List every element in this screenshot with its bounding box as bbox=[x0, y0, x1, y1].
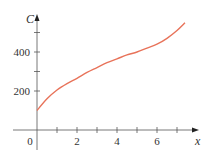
ticks bbox=[34, 33, 177, 134]
y-tick-label: 400 bbox=[14, 46, 31, 58]
x-axis-label: x bbox=[194, 134, 201, 148]
x-axis-arrow-icon bbox=[192, 128, 199, 133]
line-chart: 0246200400 C x bbox=[0, 0, 211, 160]
y-axis-arrow-icon bbox=[35, 14, 40, 21]
x-tick-label: 4 bbox=[114, 135, 120, 147]
tick-labels: 0246200400 bbox=[14, 46, 161, 147]
y-axis-label: C bbox=[26, 12, 35, 26]
cost-curve bbox=[37, 23, 185, 111]
axes bbox=[13, 14, 199, 150]
x-tick-label: 6 bbox=[154, 135, 160, 147]
y-tick-label: 200 bbox=[14, 85, 31, 97]
x-tick-label: 0 bbox=[27, 135, 33, 147]
x-tick-label: 2 bbox=[74, 135, 80, 147]
